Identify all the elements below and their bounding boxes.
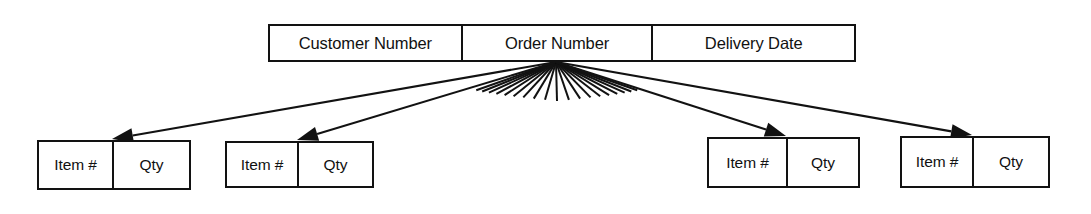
connector-arrow-to-line-item-3-head (764, 123, 786, 137)
line-item-3[interactable]: Item # Qty (707, 137, 860, 188)
order-structure-diagram: Customer Number Order Number Delivery Da… (0, 0, 1091, 214)
connector-arrow-to-line-item-2-head (297, 127, 319, 141)
order-header-record[interactable]: Customer Number Order Number Delivery Da… (268, 24, 856, 62)
line-item-4-cell-item[interactable]: Item # (902, 138, 972, 186)
connector-arrow-to-line-item-1-shaft (133, 62, 556, 135)
line-item-2-cell-qty[interactable]: Qty (297, 143, 372, 186)
connector-arrow-to-line-item-3-shaft (556, 62, 766, 130)
connector-arrow-to-line-item-4-shaft (556, 62, 951, 131)
line-item-2[interactable]: Item # Qty (225, 141, 374, 188)
fan-line (556, 62, 557, 101)
header-cell-customer[interactable]: Customer Number (270, 26, 461, 60)
line-item-1-cell-qty[interactable]: Qty (112, 142, 189, 188)
header-cell-order[interactable]: Order Number (461, 26, 652, 60)
line-item-3-cell-qty[interactable]: Qty (786, 139, 858, 186)
line-item-1[interactable]: Item # Qty (37, 140, 191, 190)
line-item-1-cell-item[interactable]: Item # (39, 142, 112, 188)
line-item-4-cell-qty[interactable]: Qty (972, 138, 1048, 186)
header-cell-delivery[interactable]: Delivery Date (651, 26, 854, 60)
line-item-3-cell-item[interactable]: Item # (709, 139, 786, 186)
line-item-2-cell-item[interactable]: Item # (227, 143, 297, 186)
line-item-4[interactable]: Item # Qty (900, 136, 1050, 188)
fan-lines-group (476, 62, 637, 101)
